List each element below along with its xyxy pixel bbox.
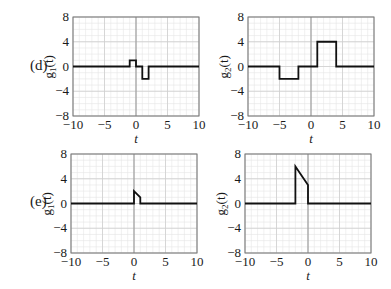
- plot-0: −10−50510−8−4048t: [55, 9, 205, 146]
- y-tick-label: 4: [235, 171, 242, 186]
- y-tick-label: −8: [55, 108, 69, 123]
- x-axis-label: t: [306, 268, 310, 283]
- y-tick-label: −4: [53, 220, 67, 235]
- plot-1: −10−50510−8−4048t: [230, 9, 380, 146]
- x-tick-label: 5: [336, 254, 343, 269]
- x-tick-label: 10: [191, 254, 204, 269]
- y-tick-label: −4: [230, 83, 244, 98]
- y-tick-label: −8: [227, 245, 241, 260]
- x-tick-label: −5: [96, 254, 110, 269]
- x-tick-label: 10: [368, 117, 381, 132]
- x-tick-label: 0: [308, 117, 315, 132]
- x-tick-label: 0: [305, 254, 312, 269]
- y-tick-label: −8: [230, 108, 244, 123]
- x-tick-label: 5: [339, 117, 346, 132]
- x-tick-label: 5: [162, 254, 169, 269]
- y-tick-label: −8: [53, 245, 67, 260]
- y-tick-label: 0: [235, 196, 242, 211]
- x-tick-label: 0: [131, 254, 138, 269]
- plot-2: −10−50510−8−4048t: [53, 146, 203, 283]
- x-tick-label: −5: [273, 117, 287, 132]
- x-axis-label: t: [132, 268, 136, 283]
- y-tick-label: 8: [238, 9, 245, 24]
- plot-3: −10−50510−8−4048t: [227, 146, 377, 283]
- x-tick-label: 10: [193, 117, 206, 132]
- y-tick-label: −4: [55, 83, 69, 98]
- y-tick-label: 8: [63, 9, 70, 24]
- y-tick-label: 4: [63, 34, 70, 49]
- x-tick-label: −5: [270, 254, 284, 269]
- y-tick-label: 0: [63, 59, 70, 74]
- y-tick-label: 8: [61, 146, 68, 161]
- plots-canvas: −10−50510−8−4048t−10−50510−8−4048t−10−50…: [0, 0, 391, 289]
- x-axis-label: t: [134, 131, 138, 146]
- x-tick-label: 10: [365, 254, 378, 269]
- y-tick-label: 0: [61, 196, 68, 211]
- y-tick-label: 8: [235, 146, 242, 161]
- y-tick-label: −4: [227, 220, 241, 235]
- y-tick-label: 4: [61, 171, 68, 186]
- y-tick-label: 4: [238, 34, 245, 49]
- y-tick-label: 0: [238, 59, 245, 74]
- x-axis-label: t: [309, 131, 313, 146]
- x-tick-label: 0: [133, 117, 140, 132]
- x-tick-label: −5: [98, 117, 112, 132]
- x-tick-label: 5: [164, 117, 171, 132]
